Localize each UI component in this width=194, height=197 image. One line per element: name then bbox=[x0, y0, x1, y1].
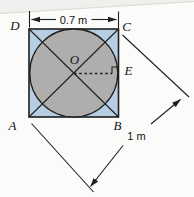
point-label-E: E bbox=[124, 63, 133, 78]
side-dimension-label: 0.7 m bbox=[60, 14, 88, 26]
diagonal-dimension-lower-arrow bbox=[91, 146, 124, 187]
vertex-label-C: C bbox=[122, 19, 131, 34]
figure-canvas: 0.7 m 1 m D C A B E O bbox=[0, 0, 194, 197]
diagonal-dimension-upper-arrow bbox=[151, 100, 181, 125]
vertex-label-A: A bbox=[8, 118, 17, 133]
vertex-label-B: B bbox=[114, 118, 122, 133]
vertex-label-D: D bbox=[9, 18, 20, 33]
geometry-figure: 0.7 m 1 m D C A B E O bbox=[0, 0, 194, 197]
center-label-O: O bbox=[70, 52, 80, 67]
diagonal-dimension-label: 1 m bbox=[127, 130, 145, 142]
extension-line-from-A bbox=[32, 124, 94, 193]
